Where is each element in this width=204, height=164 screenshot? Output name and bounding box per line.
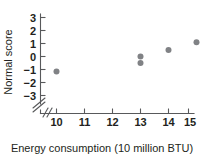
x-axis-ticks bbox=[57, 109, 189, 114]
data-points-group: 10, −1.1513, 0.013, −0.514, 0.515, 1.1 bbox=[54, 39, 200, 74]
data-point: 13, −0.5 bbox=[138, 60, 144, 66]
scatter-chart-figure: 3 2 1 0 −1 −2 −3 10 11 12 13 14 15 10, −… bbox=[0, 0, 204, 164]
x-tick-label-11: 11 bbox=[79, 116, 91, 128]
x-axis-title: Energy consumption (10 million BTU) bbox=[11, 142, 193, 154]
y-tick-label-neg2: −2 bbox=[23, 77, 36, 89]
x-tick-label-13: 13 bbox=[134, 116, 146, 128]
y-axis-title: Normal score bbox=[2, 29, 14, 94]
y-tick-label-neg3: −3 bbox=[23, 90, 36, 102]
data-point: 14, 0.5 bbox=[166, 47, 172, 53]
data-point: 10, −1.15 bbox=[54, 68, 60, 74]
y-tick-label-1: 1 bbox=[30, 38, 36, 50]
y-tick-label-3: 3 bbox=[30, 12, 36, 24]
data-point: 15, 1.1 bbox=[194, 39, 200, 45]
y-tick-label-neg1: −1 bbox=[23, 64, 36, 76]
y-tick-label-0: 0 bbox=[30, 51, 36, 63]
x-tick-label-10: 10 bbox=[50, 116, 62, 128]
x-tick-label-12: 12 bbox=[106, 116, 118, 128]
x-tick-label-15: 15 bbox=[184, 116, 196, 128]
x-tick-label-14: 14 bbox=[162, 116, 175, 128]
chart-canvas: 3 2 1 0 −1 −2 −3 10 11 12 13 14 15 10, −… bbox=[0, 0, 204, 164]
data-point: 13, 0.0 bbox=[138, 54, 144, 60]
y-tick-label-2: 2 bbox=[30, 25, 36, 37]
y-axis-ticks bbox=[41, 18, 46, 96]
